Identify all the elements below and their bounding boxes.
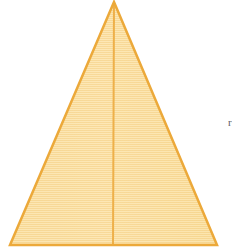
clipped-edge-glyph: r: [228, 115, 234, 129]
median-line: [113, 2, 114, 245]
triangle-figure: [0, 0, 234, 247]
figure-canvas: r: [0, 0, 234, 247]
